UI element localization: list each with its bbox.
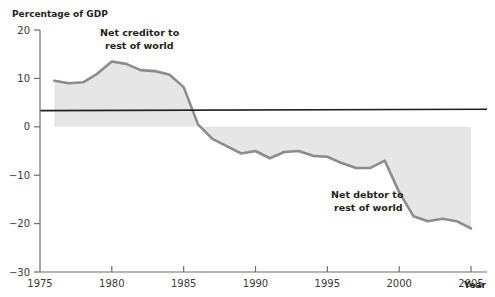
gdp-percentage-area-chart: Percentage of GDP 20100−10−20−30 1975198… <box>0 0 495 297</box>
y-tick-label: −20 <box>9 218 30 229</box>
x-axis-title: Year <box>463 280 487 290</box>
y-tick-label: −30 <box>9 267 30 278</box>
x-tick-label: 1985 <box>171 278 196 289</box>
chart-container: Percentage of GDP 20100−10−20−30 1975198… <box>0 0 495 297</box>
x-tick-label: 1980 <box>99 278 124 289</box>
plot-area <box>54 61 471 228</box>
x-tick-label: 1975 <box>27 278 52 289</box>
net-creditor-line1: Net creditor to <box>100 27 180 38</box>
annotation-net-creditor: Net creditor to rest of world <box>100 27 180 51</box>
y-axis-title: Percentage of GDP <box>12 9 108 19</box>
y-axis-ticks: 20100−10−20−30 <box>9 25 40 278</box>
annotation-net-debtor: Net debtor to rest of world <box>331 189 404 213</box>
x-tick-label: 1995 <box>315 278 340 289</box>
y-tick-label: 10 <box>17 73 30 84</box>
y-tick-label: 20 <box>17 25 30 36</box>
net-debtor-line2: rest of world <box>334 202 403 213</box>
x-axis-ticks: 1975198019851990199520002005 <box>27 266 483 289</box>
area-fill <box>54 61 471 228</box>
y-tick-label: −10 <box>9 170 30 181</box>
net-debtor-line1: Net debtor to <box>331 189 404 200</box>
x-tick-label: 2000 <box>386 278 411 289</box>
y-tick-label: 0 <box>24 121 30 132</box>
net-creditor-line2: rest of world <box>105 40 174 51</box>
x-tick-label: 1990 <box>243 278 268 289</box>
